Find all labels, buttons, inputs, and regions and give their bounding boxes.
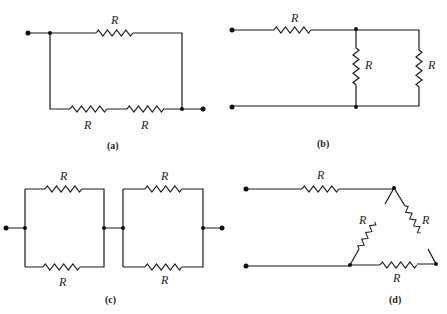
resistor-label: R [83,118,92,132]
resistor-icon [43,264,80,270]
circuit-c: R R R R (c) [4,169,225,306]
resistor-icon [127,106,164,112]
junction-dot [102,226,106,230]
resistor-icon [380,262,417,268]
resistor-icon [96,30,133,36]
resistor-icon [353,48,359,85]
resistor-label: R [140,118,149,132]
junction-dot [180,107,184,111]
resistor-icon [145,186,182,192]
resistor-label: R [392,271,401,285]
terminal-dot [244,264,249,269]
resistor-icon [302,186,339,192]
resistor-icon [45,186,82,192]
resistor-icon [416,50,422,87]
resistor-label: R [110,13,119,27]
terminal-dot [201,107,206,112]
terminal-dot [230,28,235,33]
resistor-icon [274,27,311,33]
resistor-label: R [59,169,68,183]
caption-d: (d) [389,294,401,306]
junction-dot [434,262,438,266]
terminal-dot [230,105,235,110]
caption-a: (a) [107,140,119,152]
terminal-dot [4,226,9,231]
junction-dot [354,27,358,31]
resistor-label: R [58,275,67,289]
circuit-b: R R R (b) [230,11,437,150]
resistor-label: R [427,58,436,72]
terminal-dot [220,226,225,231]
junction-dot [201,226,205,230]
junction-dot [121,226,125,230]
circuit-d: R R R R (d) [244,168,439,306]
junction-dot [48,31,52,35]
terminal-dot [244,187,249,192]
resistor-icon [403,205,423,235]
resistor-label: R [316,168,325,182]
junction-dot [348,263,352,267]
resistor-label: R [364,58,373,72]
resistor-icon [70,106,107,112]
resistor-icon [145,264,182,270]
circuit-figure: R R R (a) R R R (b) R R R R (c) [0,0,447,314]
caption-b: (b) [317,138,329,150]
junction-dot [23,226,27,230]
junction-dot [392,186,396,190]
junction-dot [354,105,358,109]
caption-c: (c) [105,294,116,306]
resistor-label: R [358,213,367,227]
resistor-label: R [160,169,169,183]
resistor-label: R [290,11,299,25]
resistor-label: R [160,273,169,287]
circuit-a: R R R (a) [26,13,206,152]
resistor-label: R [421,213,430,227]
terminal-dot [26,31,31,36]
